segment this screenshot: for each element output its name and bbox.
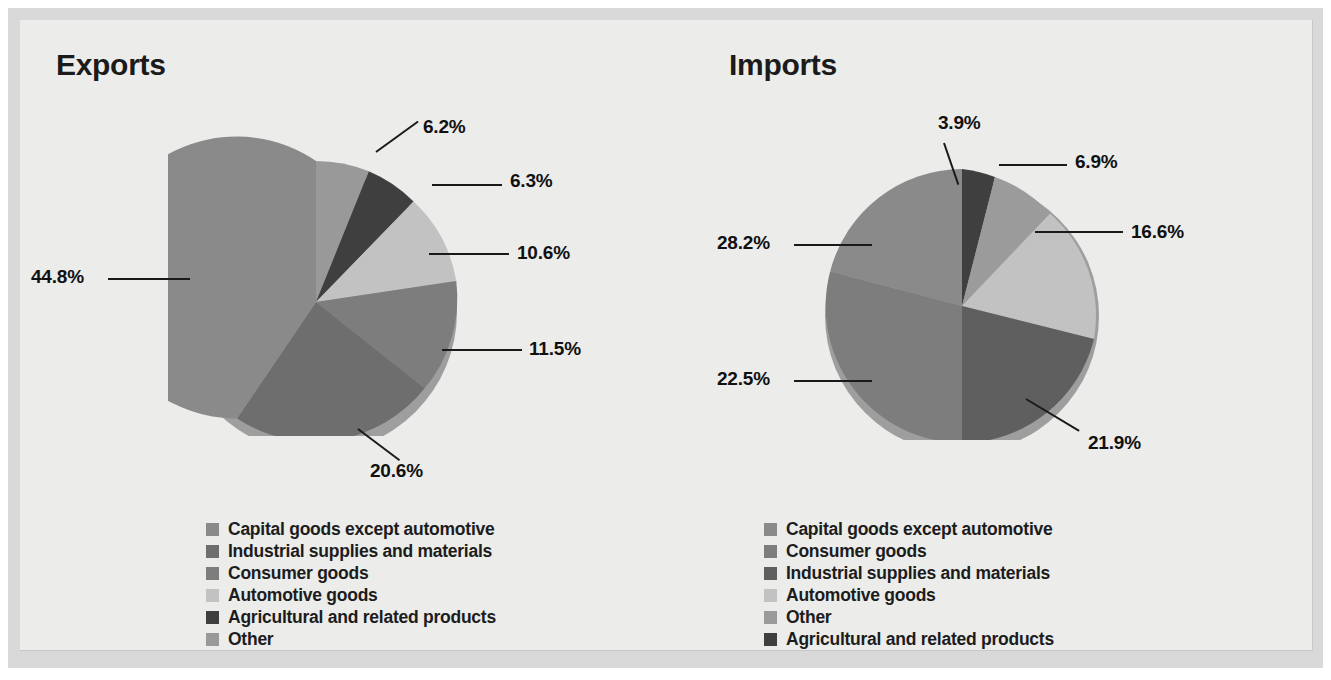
legend-item-label: Industrial supplies and materials xyxy=(228,541,492,562)
legend-swatch-icon xyxy=(764,567,777,580)
legend-swatch-icon xyxy=(206,567,219,580)
exports-leader-6-3 xyxy=(432,184,502,186)
legend-item-label: Automotive goods xyxy=(228,585,378,606)
exports-legend: Capital goods except automotive Industri… xyxy=(206,518,496,650)
exports-label-6-2: 6.2% xyxy=(423,116,466,138)
exports-leader-44-8 xyxy=(108,278,190,280)
imports-leader-16-6 xyxy=(1035,231,1123,233)
legend-item[interactable]: Automotive goods xyxy=(764,584,1054,606)
legend-swatch-icon xyxy=(206,611,219,624)
exports-label-44-8: 44.8% xyxy=(31,266,84,288)
imports-panel: Imports 3.9% 6.9% xyxy=(666,20,1313,651)
imports-slices xyxy=(826,169,1096,440)
imports-label-3-9: 3.9% xyxy=(938,112,981,134)
legend-swatch-icon xyxy=(764,523,777,536)
legend-item[interactable]: Other xyxy=(206,628,496,650)
legend-item[interactable]: Consumer goods xyxy=(206,562,496,584)
legend-swatch-icon xyxy=(206,545,219,558)
imports-leader-28-2 xyxy=(794,244,872,246)
exports-pie xyxy=(168,116,478,436)
figure-frame-inner: Exports 6.2% xyxy=(20,20,1313,651)
legend-swatch-icon xyxy=(764,545,777,558)
legend-item-label: Consumer goods xyxy=(228,563,368,584)
legend-swatch-icon xyxy=(206,633,219,646)
exports-title: Exports xyxy=(56,48,166,82)
legend-item-label: Other xyxy=(786,607,831,628)
legend-item-label: Capital goods except automotive xyxy=(786,519,1052,540)
legend-swatch-icon xyxy=(764,589,777,602)
legend-item[interactable]: Consumer goods xyxy=(764,540,1054,562)
exports-pie-svg xyxy=(168,116,478,436)
imports-leader-22-5 xyxy=(794,380,872,382)
exports-leader-11-5 xyxy=(442,349,522,351)
imports-label-16-6: 16.6% xyxy=(1131,221,1184,243)
legend-item[interactable]: Agricultural and related products xyxy=(764,628,1054,650)
legend-item-label: Other xyxy=(228,629,273,650)
exports-label-6-3: 6.3% xyxy=(510,170,553,192)
exports-label-11-5: 11.5% xyxy=(529,338,581,360)
figure-root: Exports 6.2% xyxy=(0,0,1331,680)
imports-legend: Capital goods except automotive Consumer… xyxy=(764,518,1054,650)
legend-item-label: Agricultural and related products xyxy=(786,629,1054,650)
legend-item[interactable]: Other xyxy=(764,606,1054,628)
imports-label-28-2: 28.2% xyxy=(717,232,770,254)
legend-item[interactable]: Capital goods except automotive xyxy=(764,518,1054,540)
legend-swatch-icon xyxy=(764,611,777,624)
legend-item[interactable]: Automotive goods xyxy=(206,584,496,606)
exports-leader-10-6 xyxy=(429,253,509,255)
legend-item-label: Capital goods except automotive xyxy=(228,519,494,540)
imports-label-22-5: 22.5% xyxy=(717,368,770,390)
legend-item-label: Agricultural and related products xyxy=(228,607,496,628)
legend-swatch-icon xyxy=(206,589,219,602)
legend-item-label: Industrial supplies and materials xyxy=(786,563,1050,584)
legend-item[interactable]: Agricultural and related products xyxy=(206,606,496,628)
legend-item[interactable]: Capital goods except automotive xyxy=(206,518,496,540)
legend-item-label: Automotive goods xyxy=(786,585,936,606)
exports-label-20-6: 20.6% xyxy=(370,460,423,482)
legend-swatch-icon xyxy=(764,633,777,646)
imports-label-6-9: 6.9% xyxy=(1075,151,1118,173)
exports-slices xyxy=(168,137,457,436)
legend-swatch-icon xyxy=(206,523,219,536)
legend-item-label: Consumer goods xyxy=(786,541,926,562)
exports-label-10-6: 10.6% xyxy=(517,242,570,264)
exports-panel: Exports 6.2% xyxy=(20,20,666,651)
legend-item[interactable]: Industrial supplies and materials xyxy=(206,540,496,562)
imports-label-21-9: 21.9% xyxy=(1088,432,1141,454)
imports-title: Imports xyxy=(729,48,837,82)
legend-item[interactable]: Industrial supplies and materials xyxy=(764,562,1054,584)
imports-leader-6-9 xyxy=(999,164,1067,166)
